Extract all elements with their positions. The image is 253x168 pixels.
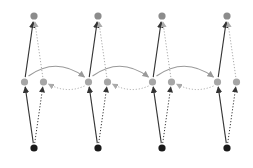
input-to-forward-arrow	[89, 87, 97, 143]
forward-to-output-arrow	[25, 22, 33, 77]
output-node	[30, 12, 37, 19]
backward-hidden-node	[40, 78, 47, 85]
forward-hidden-node	[85, 78, 92, 85]
input-to-backward-arrow	[35, 87, 43, 143]
backward-hidden-node	[104, 78, 111, 85]
input-to-backward-arrow	[228, 87, 236, 143]
nodes-layer	[21, 12, 240, 151]
forward-hidden-node	[149, 78, 156, 85]
input-node	[223, 144, 230, 151]
backward-hidden-node	[168, 78, 175, 85]
output-node	[94, 12, 101, 19]
input-to-forward-arrow	[218, 87, 226, 143]
input-to-backward-arrow	[163, 87, 171, 143]
forward-to-output-arrow	[89, 22, 97, 77]
forward-recurrent-arrow	[157, 66, 214, 77]
input-node	[94, 144, 101, 151]
birnn-diagram	[0, 0, 253, 168]
input-to-forward-arrow	[153, 87, 161, 143]
forward-recurrent-arrow	[93, 66, 149, 77]
forward-to-output-arrow	[218, 22, 226, 77]
forward-recurrent-arrow	[29, 66, 85, 77]
backward-recurrent-arrow	[49, 84, 85, 90]
input-node	[30, 144, 37, 151]
forward-hidden-node	[214, 78, 221, 85]
forward-hidden-node	[21, 78, 28, 85]
backward-recurrent-arrow	[177, 84, 214, 90]
backward-to-output-arrow	[228, 22, 236, 77]
input-node	[158, 144, 165, 151]
input-to-backward-arrow	[99, 87, 107, 143]
backward-hidden-node	[233, 78, 240, 85]
forward-to-output-arrow	[153, 22, 161, 77]
output-node	[158, 12, 165, 19]
edges-layer	[25, 22, 236, 143]
input-to-forward-arrow	[25, 87, 33, 143]
output-node	[223, 12, 230, 19]
backward-recurrent-arrow	[113, 84, 149, 90]
